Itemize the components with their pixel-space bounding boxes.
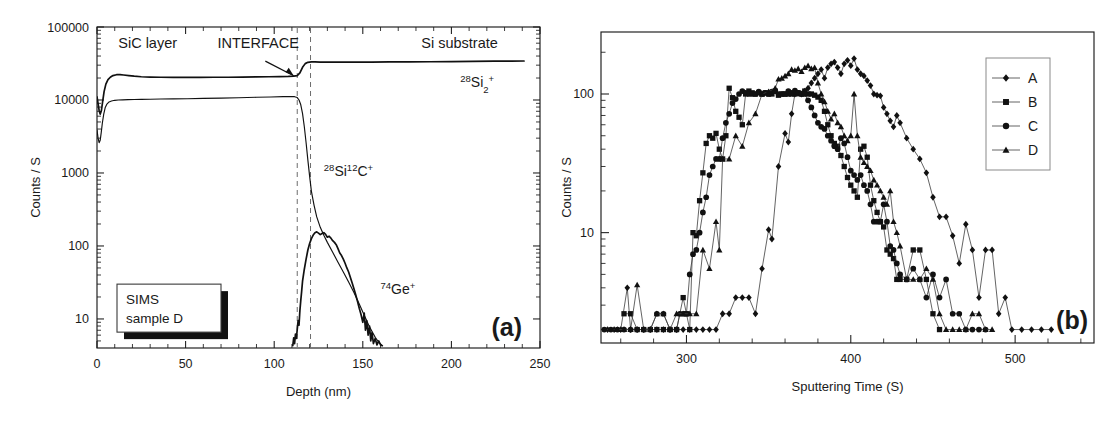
data-point-C — [674, 327, 680, 333]
data-point-C — [687, 272, 693, 278]
panel-b-plot: 300400500Sputtering Time (S)10100Counts … — [559, 0, 1094, 394]
data-point-D — [936, 311, 942, 317]
data-point-C — [802, 91, 808, 97]
data-point-D — [848, 133, 854, 139]
data-point-A — [950, 232, 956, 239]
data-point-A — [887, 117, 893, 124]
data-point-A — [707, 326, 713, 333]
data-point-B — [881, 224, 886, 229]
data-point-D — [871, 177, 877, 183]
data-point-C — [855, 177, 861, 183]
x-tick-label: 250 — [530, 357, 551, 371]
data-point-A — [894, 112, 900, 119]
series-line-D — [617, 66, 992, 330]
data-point-C — [910, 266, 916, 272]
data-point-B — [654, 327, 659, 332]
data-point-D — [706, 265, 712, 271]
data-point-A — [1048, 326, 1054, 333]
panel-tag-b: (b) — [1056, 306, 1088, 334]
y-tick-label: 100000 — [47, 21, 89, 35]
data-point-B — [930, 311, 935, 316]
panel-b-sputtering-profiles: 300400500Sputtering Time (S)10100Counts … — [557, 0, 1117, 422]
data-point-D — [831, 111, 837, 117]
x-tick-label: 150 — [352, 357, 373, 371]
data-point-C — [835, 146, 841, 152]
data-point-A — [769, 236, 775, 243]
x-axis-title: Depth (nm) — [286, 384, 351, 399]
data-point-C — [943, 277, 949, 283]
y-tick-label: 10 — [580, 226, 594, 240]
annotation-si-substrate: Si substrate — [421, 35, 498, 51]
data-point-A — [884, 110, 890, 117]
note-line-2: sample D — [126, 311, 183, 326]
data-point-A — [720, 310, 726, 317]
y-tick-label: 10 — [75, 312, 89, 326]
data-point-C — [845, 154, 851, 160]
data-point-C — [878, 219, 884, 225]
y-axis-title: Counts / S — [559, 157, 574, 218]
y-tick-label: 1000 — [61, 166, 89, 180]
series-line-C — [604, 90, 985, 329]
data-point-A — [694, 326, 700, 333]
x-axis-title: Sputtering Time (S) — [792, 379, 904, 394]
data-point-D — [881, 194, 887, 200]
data-point-B — [697, 198, 702, 203]
data-point-A — [625, 284, 631, 291]
data-point-A — [983, 247, 989, 254]
data-point-B — [842, 164, 847, 169]
data-point-A — [956, 260, 962, 267]
y-axis-b: 10100 — [573, 52, 609, 329]
data-point-C — [822, 126, 828, 132]
panel-a-plot: 050100150200250Depth (nm)101001000100001… — [28, 21, 550, 400]
legend-marker-circle — [1003, 123, 1009, 129]
data-point-B — [861, 144, 866, 149]
data-point-D — [894, 229, 900, 235]
species-label-Si12C+: 28Si12C+ — [324, 162, 374, 180]
data-point-D — [897, 243, 903, 249]
data-point-A — [930, 194, 936, 201]
data-point-B — [621, 311, 626, 316]
data-point-B — [681, 295, 686, 300]
data-point-A — [891, 123, 897, 130]
data-point-C — [956, 311, 962, 317]
data-point-B — [874, 210, 879, 215]
species-label-Ge+: 74Ge+ — [381, 279, 416, 297]
legend-label-A: A — [1028, 70, 1038, 86]
series-line-A — [608, 59, 1052, 330]
data-point-A — [1002, 294, 1008, 301]
data-point-C — [924, 295, 930, 301]
curve-Ge+ — [293, 232, 382, 346]
data-point-D — [815, 80, 821, 86]
data-point-C — [851, 172, 857, 178]
data-point-D — [851, 91, 857, 97]
data-point-D — [795, 66, 801, 72]
panel-a-sims-sample-d: 050100150200250Depth (nm)101001000100001… — [0, 0, 560, 422]
data-point-C — [891, 247, 897, 253]
data-point-C — [608, 327, 614, 333]
x-tick-label: 100 — [264, 357, 285, 371]
data-point-C — [825, 133, 831, 139]
data-point-A — [740, 294, 746, 301]
interface-arrowhead — [286, 68, 294, 76]
data-point-D — [805, 62, 811, 68]
legend-label-D: D — [1028, 142, 1038, 158]
data-point-A — [943, 213, 949, 220]
data-point-D — [828, 116, 834, 122]
data-point-D — [739, 143, 745, 149]
x-tick-label: 300 — [676, 352, 697, 366]
data-point-A — [753, 310, 759, 317]
y-tick-label: 100 — [573, 87, 594, 101]
data-point-A — [680, 326, 686, 333]
x-tick-label: 50 — [179, 357, 193, 371]
data-point-A — [989, 247, 995, 254]
data-point-D — [716, 247, 722, 253]
data-point-B — [937, 327, 942, 332]
data-point-C — [861, 182, 867, 188]
data-point-D — [713, 218, 719, 224]
x-tick-label: 0 — [94, 357, 101, 371]
data-point-A — [776, 163, 782, 170]
data-point-C — [976, 327, 982, 333]
data-point-C — [700, 210, 706, 216]
data-point-A — [963, 221, 969, 228]
legend[interactable]: ABCD — [986, 58, 1050, 170]
